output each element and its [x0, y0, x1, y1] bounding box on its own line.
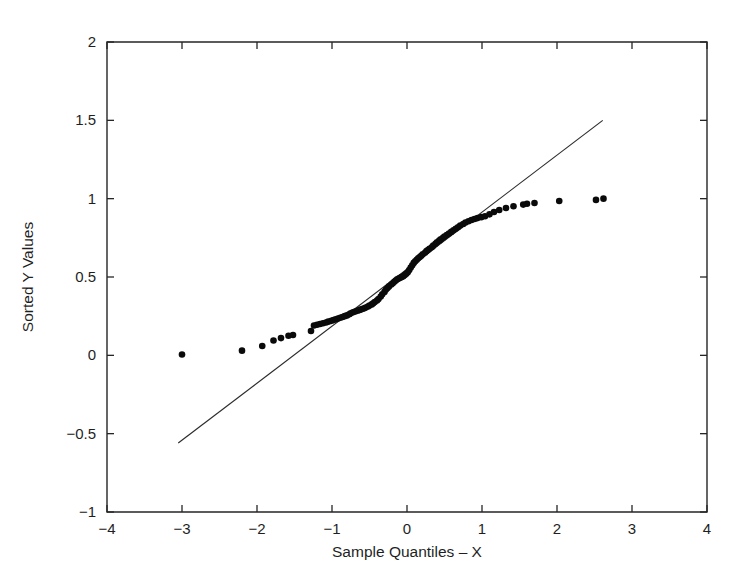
scatter-point [593, 197, 600, 204]
x-tick-label: 3 [628, 520, 636, 537]
y-tick-label: −0.5 [66, 425, 96, 442]
scatter-point [179, 351, 186, 358]
x-tick-label: 4 [703, 520, 711, 537]
x-tick-label: −1 [323, 520, 340, 537]
y-tick-label: 0.5 [75, 268, 96, 285]
scatter-point [531, 200, 538, 207]
scatter-point [503, 205, 510, 212]
y-tick-label: 0 [88, 346, 96, 363]
scatter-point [239, 347, 246, 354]
qq-plot-figure: −4−3−2−101234 −1−0.500.511.52 Sample Qua… [0, 0, 746, 581]
y-tick-label: 2 [88, 33, 96, 50]
scatter-point [259, 343, 266, 350]
scatter-point [496, 207, 503, 214]
y-tick-label: −1 [79, 503, 96, 520]
qq-plot-canvas: −4−3−2−101234 −1−0.500.511.52 Sample Qua… [0, 0, 746, 581]
y-tick-label: 1 [88, 190, 96, 207]
y-axis-title: Sorted Y Values [19, 222, 36, 333]
scatter-point [556, 198, 563, 205]
figure-background [0, 0, 746, 581]
x-tick-label: −3 [173, 520, 190, 537]
x-axis-title: Sample Quantiles – X [332, 543, 483, 560]
scatter-point [524, 200, 531, 207]
scatter-point [290, 332, 297, 339]
x-tick-label: −4 [98, 520, 115, 537]
x-tick-label: 2 [553, 520, 561, 537]
scatter-point [278, 335, 285, 342]
scatter-point [510, 203, 517, 210]
x-tick-label: 1 [478, 520, 486, 537]
x-tick-label: 0 [403, 520, 411, 537]
scatter-point [270, 337, 277, 344]
y-tick-label: 1.5 [75, 111, 96, 128]
scatter-point [600, 195, 607, 202]
x-tick-label: −2 [248, 520, 265, 537]
